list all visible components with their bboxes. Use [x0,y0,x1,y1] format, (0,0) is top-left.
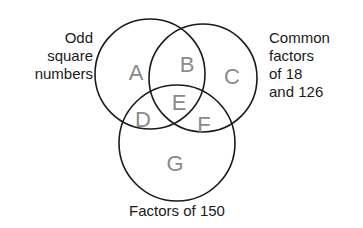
region-B: B [180,52,195,77]
venn-diagram: A B C D E F G [0,0,363,228]
region-G: G [166,151,183,176]
region-D: D [135,107,151,132]
region-A: A [129,60,144,85]
region-F: F [197,112,210,137]
region-E: E [172,90,187,115]
region-C: C [224,64,240,89]
